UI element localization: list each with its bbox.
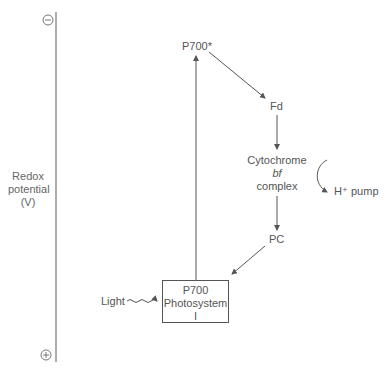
ps-line3: I: [163, 310, 228, 323]
axis-label-line3: (V): [8, 196, 48, 209]
axis-label-line1: Redox: [8, 170, 48, 183]
cropped-caption: [12, 370, 142, 376]
axis-label-line2: potential: [8, 183, 48, 196]
ps-line1: P700: [163, 284, 228, 297]
node-fd: Fd: [270, 100, 283, 113]
h-pump-curved-arrow: [317, 160, 327, 192]
cyt-line1: Cytochrome: [246, 154, 308, 167]
minus-sign-icon: [43, 15, 53, 25]
node-p700-excited: P700*: [182, 40, 212, 53]
node-cytochrome-bf-complex: Cytochrome bf complex: [246, 154, 308, 193]
arrow-p700-to-fd: [209, 52, 265, 98]
redox-axis-label: Redox potential (V): [8, 170, 48, 209]
node-light: Light: [101, 295, 125, 308]
arrow-pc-to-psi: [232, 246, 265, 274]
node-photosystem-i: P700 Photosystem I: [162, 280, 229, 323]
node-h-pump: H⁺ pump: [334, 185, 379, 198]
cyt-line3: complex: [246, 180, 308, 193]
light-wavy-arrow: [127, 300, 157, 303]
node-pc: PC: [269, 233, 284, 246]
ps-line2: Photosystem: [163, 297, 228, 310]
cyt-line2: bf: [246, 167, 308, 180]
plus-sign-icon: [41, 350, 51, 360]
